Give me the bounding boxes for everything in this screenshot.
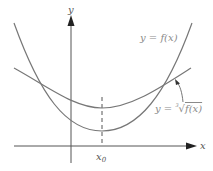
x0-label-subscript: 0 [102, 156, 107, 164]
curve-cube-root-f [14, 68, 191, 108]
x0-label: x0 [96, 151, 107, 164]
label-cube-root-body: f(x) [184, 103, 202, 114]
label-cube-root-prefix: y = [154, 103, 175, 114]
x-axis-arrow-icon [186, 143, 197, 150]
pointer-arrow-line [177, 82, 183, 102]
y-axis-label: y [67, 4, 74, 15]
label-f-prefix: y = [139, 32, 160, 43]
x-axis-label: x [200, 140, 206, 151]
y-axis-arrow-icon [68, 15, 75, 26]
y-axis [68, 15, 75, 163]
label-f: y = f(x) [139, 32, 178, 43]
graph: y x x0 y = f(x) y = 3√f(x) [0, 0, 213, 171]
x-axis [14, 143, 197, 150]
label-cube-root-f: y = 3√f(x) [154, 102, 202, 114]
pointer-arrow-icon [175, 79, 180, 85]
label-f-body: f(x) [159, 32, 177, 43]
